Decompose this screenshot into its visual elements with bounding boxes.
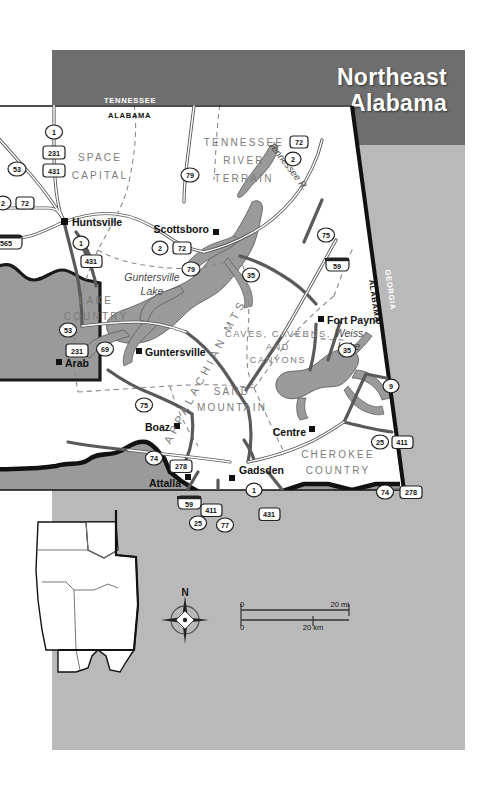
map-page: Northeast Alabama [0, 0, 501, 797]
svg-text:72: 72 [21, 199, 29, 208]
svg-text:565: 565 [0, 239, 12, 248]
svg-text:53: 53 [13, 165, 21, 174]
title-line-2: Alabama [337, 90, 447, 116]
shield-route-53-north: 53 [8, 162, 26, 176]
shield-route-2-west: 2 [0, 196, 11, 210]
svg-text:2: 2 [1, 199, 5, 208]
shield-route-72-west: 72 [16, 197, 34, 209]
page-title: Northeast Alabama [337, 64, 447, 116]
title-line-1: Northeast [337, 64, 447, 90]
shield-route-565: 565 [0, 235, 22, 249]
map-sheet-background: Northeast Alabama [52, 50, 465, 750]
